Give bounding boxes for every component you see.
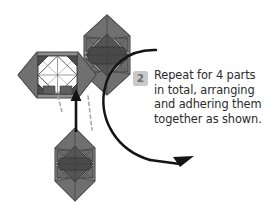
instruction-line-4: together as shown. [154, 112, 275, 127]
instruction-callout: 2 Repeat for 4 parts in total, arranging… [133, 68, 275, 126]
instruction-line-3: and adhering them [154, 97, 275, 112]
instruction-line-1: Repeat for 4 parts [154, 68, 275, 83]
bottom-module [55, 128, 95, 201]
step-number-badge: 2 [133, 71, 148, 86]
instruction-line-2: in total, arranging [154, 83, 275, 98]
alignment-guide-right [88, 96, 92, 130]
instruction-text: Repeat for 4 parts in total, arranging a… [154, 68, 275, 126]
origami-instruction-figure: 2 Repeat for 4 parts in total, arranging… [0, 0, 278, 213]
